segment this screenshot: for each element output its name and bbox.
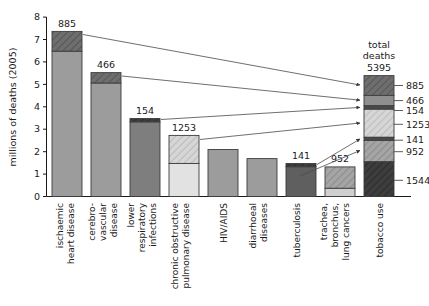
cat-line: diseases	[259, 203, 269, 242]
cat-line: disease	[109, 203, 119, 238]
bar-tobacco-cap	[169, 135, 199, 163]
cat-label-lower-respiratory-infections: lower respiratory infections	[126, 202, 158, 252]
stack-label-885: 885	[406, 80, 424, 91]
y-tick-label-8: 8	[34, 11, 40, 22]
bar-body	[91, 83, 121, 197]
stack-label-1253: 1253	[406, 119, 429, 130]
stack-segment-952	[364, 141, 394, 162]
cat-line: trachea,	[319, 203, 329, 240]
cat-label-hiv-aids: HIV/AIDS	[219, 203, 229, 243]
cat-line: respiratory	[137, 202, 147, 252]
cat-line: tuberculosis	[292, 203, 302, 258]
bar-tuberculosis: 141	[286, 150, 316, 197]
stack-segment-1544	[364, 162, 394, 197]
stack-segment-154	[364, 106, 394, 110]
connector-885	[83, 35, 360, 86]
total-deaths-value: 5395	[367, 62, 391, 73]
cat-label-ischaemic-heart-disease: ischaemic heart disease	[55, 203, 76, 264]
total-deaths-heading-line2: deaths	[363, 50, 395, 61]
stack-label-1544: 1544	[406, 175, 429, 186]
bar-body	[52, 51, 82, 196]
bar-diarrhoeal-diseases	[247, 159, 277, 197]
bar-body	[247, 159, 277, 197]
chart-figure: 0 1 2 3 4 5 6 7 8 millions of deaths (20…	[0, 0, 429, 306]
y-tick-label-7: 7	[34, 34, 40, 45]
cat-label-tuberculosis: tuberculosis	[292, 203, 302, 258]
bar-value-label: 1253	[172, 122, 196, 133]
stack-segment-141	[364, 137, 394, 140]
cat-label-diarrhoeal-diseases: diarrhoeal diseases	[248, 203, 269, 249]
bar-tobacco-cap	[130, 119, 160, 122]
cat-line: ischaemic	[55, 203, 65, 248]
bar-body	[325, 188, 355, 196]
connector-466	[122, 76, 360, 100]
cat-line: lower	[126, 203, 136, 228]
bar-tobacco-cap	[52, 31, 82, 51]
bar-body	[169, 163, 199, 196]
bar-trachea-bronchus-lung-cancers: 952	[325, 153, 355, 197]
cat-line: bronchus,	[330, 203, 340, 247]
bar-body	[130, 122, 160, 197]
cat-label-chronic-obstructive-pulmonary-disease: chronic obstructive pulmonary disease	[170, 203, 191, 290]
bar-value-label: 141	[292, 150, 310, 161]
y-tick-label-6: 6	[34, 56, 40, 67]
cat-line: tobacco use	[375, 203, 385, 258]
stack-label-141: 141	[406, 134, 424, 145]
bar-tobacco-cap	[286, 164, 316, 167]
cat-label-tobacco-use: tobacco use	[375, 203, 385, 258]
bar-tobacco-cap	[325, 167, 355, 188]
total-deaths-heading-line1: total	[368, 39, 390, 50]
bar-value-label: 154	[136, 105, 154, 116]
y-tick-label-1: 1	[34, 168, 40, 179]
y-tick-label-0: 0	[34, 191, 40, 202]
cat-line: chronic obstructive	[170, 203, 180, 290]
y-tick-label-4: 4	[34, 101, 40, 112]
cat-label-trachea-bronchus-lung-cancers: trachea, bronchus, lung cancers	[319, 203, 351, 261]
cat-label-cerebro-vascular-disease: cerebro- vascular disease	[87, 203, 119, 241]
y-tick-label-3: 3	[34, 123, 40, 134]
bar-cerebro-vascular-disease: 466	[91, 59, 121, 197]
stack-label-154: 154	[406, 105, 424, 116]
cat-line: diarrhoeal	[248, 203, 258, 249]
y-tick-label-2: 2	[34, 146, 40, 157]
cat-line: infections	[148, 203, 158, 247]
cat-line: cerebro-	[87, 203, 97, 241]
y-tick-label-5: 5	[34, 79, 40, 90]
bar-value-label: 885	[58, 18, 76, 29]
connector-154	[161, 107, 360, 119]
bar-body	[208, 150, 238, 197]
stack-label-952: 952	[406, 146, 424, 157]
bar-tobacco-cap	[91, 73, 121, 83]
bar-value-label: 466	[97, 59, 115, 70]
connector-1253	[200, 123, 360, 140]
cat-line: vascular	[98, 203, 108, 241]
stack-segment-466	[364, 95, 394, 105]
cat-line: lung cancers	[341, 203, 351, 261]
chart-svg: 0 1 2 3 4 5 6 7 8 millions of deaths (20…	[0, 0, 429, 306]
cat-line: HIV/AIDS	[219, 203, 229, 243]
cat-line: heart disease	[66, 203, 76, 264]
stack-segment-885	[364, 76, 394, 96]
x-axis-category-labels: ischaemic heart disease cerebro- vascula…	[55, 202, 385, 289]
bar-chronic-obstructive-pulmonary-disease: 1253	[169, 122, 199, 197]
bar-lower-respiratory-infections: 154	[130, 105, 160, 197]
cat-line: pulmonary disease	[181, 203, 191, 289]
y-axis-title: millions of deaths (2005)	[7, 48, 18, 167]
bar-hiv-aids	[208, 150, 238, 197]
bar-ischaemic-heart-disease: 885	[52, 18, 82, 197]
total-deaths-column: total deaths 5395 885 466 154	[363, 39, 429, 197]
stack-segment-1253	[364, 109, 394, 137]
y-axis: 0 1 2 3 4 5 6 7 8 millions of deaths (20…	[7, 11, 47, 201]
